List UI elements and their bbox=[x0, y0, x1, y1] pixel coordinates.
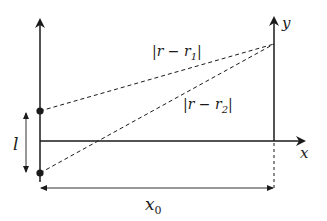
x0-label: x0 bbox=[145, 194, 162, 217]
distance-r2-label: |r − r2| bbox=[183, 96, 233, 115]
distance-line-r2 bbox=[40, 44, 274, 173]
distance-r1-label: |r − r1| bbox=[152, 43, 202, 62]
charge-r2-dot bbox=[36, 169, 43, 176]
charge-r1-dot bbox=[36, 107, 43, 114]
y-axis-label: y bbox=[281, 14, 291, 32]
separation-label: l bbox=[13, 134, 18, 154]
diagram-canvas: y x |r − r1| |r − r2| l x0 bbox=[0, 0, 327, 221]
x-axis-label: x bbox=[300, 144, 309, 162]
